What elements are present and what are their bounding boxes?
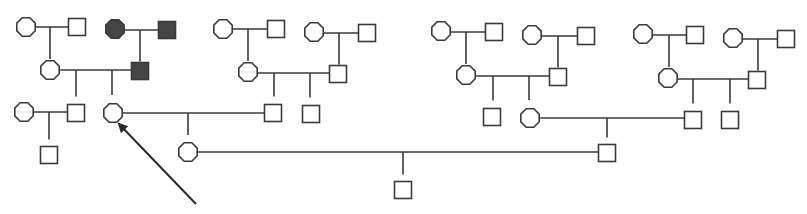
affected-female-circle-icon [106,20,124,38]
female-circle-icon [521,109,539,127]
male-square-icon [578,28,595,45]
male-square-icon [303,106,320,123]
affected-male-square-icon [159,22,176,39]
male-square-icon [359,25,376,42]
male-square-icon [687,27,704,44]
female-circle-icon [634,25,652,43]
male-square-icon [599,145,616,162]
female-circle-icon [457,66,475,84]
male-square-icon [265,105,282,122]
male-square-icon [778,31,795,48]
proband-arrow-icon [119,124,196,204]
female-circle-icon [41,61,59,79]
individuals [15,18,795,199]
male-square-icon [722,112,739,129]
affected-male-square-icon [132,63,149,80]
female-circle-icon [305,23,323,41]
male-square-icon [486,24,503,41]
female-circle-icon [179,143,197,161]
male-square-icon [550,69,567,86]
male-square-icon [330,66,347,83]
female-circle-icon [659,69,677,87]
male-square-icon [685,112,702,129]
female-circle-icon [724,29,742,47]
male-square-icon [68,105,85,122]
female-circle-icon [523,26,541,44]
pedigree-svg [0,0,807,214]
male-square-icon [484,109,501,126]
female-circle-icon-proband [104,104,122,122]
male-square-icon [395,182,412,199]
female-circle-icon [432,22,450,40]
male-square-icon [749,72,766,89]
female-circle-icon [239,63,257,81]
pedigree-diagram [0,0,807,214]
male-square-icon [69,19,86,36]
proband-arrow [119,124,196,204]
female-circle-icon [15,103,33,121]
female-circle-icon [17,18,35,36]
male-square-icon [41,147,58,164]
female-circle-icon [214,20,232,38]
male-square-icon [268,21,285,38]
